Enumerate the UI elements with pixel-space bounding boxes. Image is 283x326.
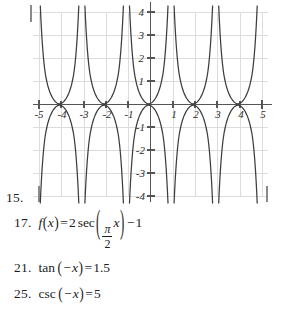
exercise-number: 15. <box>6 190 23 206</box>
constant-one: 1 <box>136 215 143 230</box>
function-name-tan: tan <box>38 260 55 275</box>
exercise-number: 21. <box>14 260 31 276</box>
equals-sign: = <box>59 215 69 230</box>
y-tick-label: -2 <box>136 144 146 156</box>
exercise-item-21: 21. tan(−x)=1.5 <box>14 260 110 276</box>
left-paren: ( <box>57 259 63 278</box>
x-tick-label: 4 <box>238 108 244 120</box>
y-tick-label: 1 <box>139 75 145 87</box>
tangent-graph-figure: -5 -4 -3 -2 -1 1 2 3 4 5 4 3 2 1 -1 -2 -… <box>0 0 283 205</box>
function-name-csc: csc <box>38 286 55 301</box>
exercise-item-17: 17. f(x)=2sec(π2x)−1 <box>14 215 142 250</box>
x-tick-label: 1 <box>171 108 177 120</box>
x-tick-label: 5 <box>260 108 266 120</box>
exercise-equation: f(x)=2sec(π2x)−1 <box>38 215 142 250</box>
right-paren: ) <box>54 214 60 233</box>
fraction-denominator-2: 2 <box>102 237 112 250</box>
right-paren-big: ) <box>120 203 126 243</box>
x-tick-label: -1 <box>124 108 133 120</box>
equation-value: 1.5 <box>93 260 110 275</box>
x-tick-label: -5 <box>34 108 44 120</box>
exercise-number: 25. <box>14 286 31 302</box>
exercise-item-25: 25. csc(−x)=5 <box>14 286 101 302</box>
fraction-numerator-pi: π <box>102 223 112 236</box>
x-tick-label: -2 <box>102 108 112 120</box>
left-paren: ( <box>58 285 64 304</box>
y-tick-label: -3 <box>136 167 146 179</box>
x-tick-label: -3 <box>79 108 89 120</box>
y-tick-label: -1 <box>136 121 145 133</box>
exercise-equation: tan(−x)=1.5 <box>38 260 110 276</box>
x-tick-label: 2 <box>193 108 199 120</box>
function-name-sec: sec <box>78 215 95 230</box>
left-paren: ( <box>42 214 48 233</box>
minus-sign: − <box>126 215 136 230</box>
exercise-number: 17. <box>14 215 31 231</box>
right-paren: ) <box>79 285 85 304</box>
y-tick-label: 3 <box>138 29 145 41</box>
right-paren: ) <box>78 259 84 278</box>
negative-sign: − <box>62 260 72 275</box>
exercise-equation: csc(−x)=5 <box>38 286 100 302</box>
x-tick-label: -4 <box>57 108 67 120</box>
fraction-pi-over-2: π2 <box>102 223 112 250</box>
y-tick-label: -4 <box>136 190 146 202</box>
x-tick-label: 3 <box>214 108 221 120</box>
negative-sign: − <box>63 286 73 301</box>
left-paren-big: ( <box>95 203 101 243</box>
equals-sign: = <box>84 286 94 301</box>
equation-value: 5 <box>94 286 101 301</box>
equals-sign: = <box>84 260 94 275</box>
coefficient: 2 <box>69 215 76 230</box>
exercise-item-15: 15. <box>6 190 23 206</box>
y-tick-label: 4 <box>139 6 145 18</box>
y-tick-label: 2 <box>139 52 145 64</box>
